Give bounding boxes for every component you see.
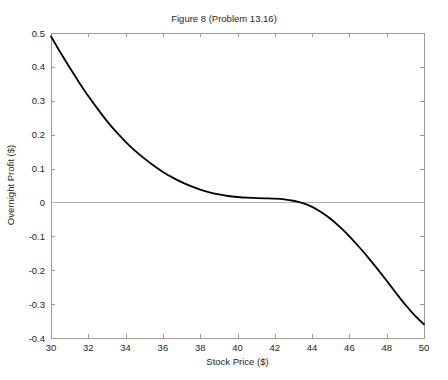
y-tick-label: -0.3 xyxy=(29,299,45,310)
overnight-profit-line-chart: 3032343638404244464850 -0.4-0.3-0.2-0.10… xyxy=(0,0,448,380)
y-axis-label: Overnight Profit ($) xyxy=(5,145,16,225)
x-axis-label: Stock Price ($) xyxy=(206,356,268,367)
y-tick-label: 0.5 xyxy=(32,28,45,39)
x-tick-label: 32 xyxy=(83,342,94,353)
x-tick-label: 48 xyxy=(381,342,392,353)
x-tick-label: 30 xyxy=(46,342,57,353)
x-tick-label: 50 xyxy=(419,342,430,353)
figure-background xyxy=(0,0,448,380)
x-tick-label: 34 xyxy=(120,342,131,353)
chart-title: Figure 8 (Problem 13.16) xyxy=(171,13,277,24)
y-tick-label: -0.4 xyxy=(29,333,45,344)
x-tick-label: 46 xyxy=(344,342,355,353)
y-tick-label: 0.1 xyxy=(32,163,45,174)
x-tick-label: 36 xyxy=(158,342,169,353)
y-tick-label: 0.4 xyxy=(32,61,45,72)
x-tick-label: 44 xyxy=(307,342,318,353)
y-tick-label: 0.2 xyxy=(32,129,45,140)
y-tick-label: 0.3 xyxy=(32,95,45,106)
y-tick-label: -0.2 xyxy=(29,265,45,276)
x-tick-label: 42 xyxy=(270,342,281,353)
y-tick-label: -0.1 xyxy=(29,231,45,242)
x-tick-label: 40 xyxy=(232,342,243,353)
y-tick-label: 0 xyxy=(40,197,45,208)
figure-container: 3032343638404244464850 -0.4-0.3-0.2-0.10… xyxy=(0,0,448,380)
x-tick-label: 38 xyxy=(195,342,206,353)
